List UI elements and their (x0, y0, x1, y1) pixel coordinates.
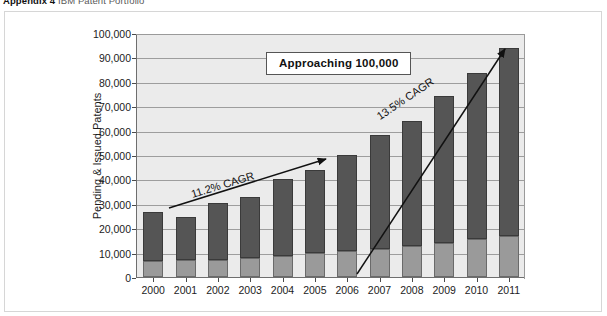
caption-label: Appendix 4 (3, 0, 55, 6)
bar-segment-pending (143, 212, 163, 261)
x-axis-tick-label-2006: 2006 (335, 284, 358, 296)
y-axis-tick-label: 80,000 (99, 77, 131, 89)
x-axis-tick-label-2003: 2003 (238, 284, 261, 296)
x-axis-tick-mark (477, 278, 478, 282)
bar-segment-issued (434, 243, 454, 277)
y-axis-tick-label: 60,000 (99, 126, 131, 138)
x-axis-tick-mark (444, 278, 445, 282)
x-axis-tick-mark (283, 278, 284, 282)
y-axis-tick-label: 90,000 (99, 52, 131, 64)
bar-segment-issued (499, 236, 519, 277)
x-axis-tick-mark (250, 278, 251, 282)
y-axis-tick-mark (132, 156, 136, 157)
y-axis-tick-mark (132, 58, 136, 59)
bar-segment-pending (337, 155, 357, 251)
bar-segment-issued (370, 249, 390, 277)
bar-segment-issued (240, 258, 260, 277)
x-axis-tick-label-2010: 2010 (465, 284, 488, 296)
y-axis-title-container: Pending & Issued Patents (51, 34, 65, 278)
y-axis-tick-label: 100,000 (93, 28, 131, 40)
bar-segment-pending (240, 197, 260, 258)
chart-figure: Pending & Issued Patents 010,00020,00030… (4, 11, 602, 312)
bar-segment-pending (273, 179, 293, 256)
y-axis-tick-label: 10,000 (99, 248, 131, 260)
y-axis-tick-mark (132, 205, 136, 206)
y-axis-tick-labels: 010,00020,00030,00040,00050,00060,00070,… (65, 34, 131, 278)
bar-segment-issued (176, 260, 196, 277)
bar-segment-issued (467, 239, 487, 277)
y-axis-tick-mark (132, 107, 136, 108)
y-axis-tick-mark (132, 180, 136, 181)
plot-border-right (524, 34, 525, 279)
bar-segment-issued (143, 261, 163, 277)
bar-segment-pending (402, 121, 422, 246)
bar-segment-issued (402, 246, 422, 277)
x-axis-tick-label-2011: 2011 (498, 284, 521, 296)
y-axis-tick-label: 20,000 (99, 223, 131, 235)
y-axis-tick-label: 0 (125, 272, 131, 284)
x-axis-tick-label-2005: 2005 (303, 284, 326, 296)
y-axis-tick-mark (132, 83, 136, 84)
x-axis-tick-label-2007: 2007 (368, 284, 391, 296)
x-axis-tick-label-2001: 2001 (174, 284, 197, 296)
y-axis-tick-mark (132, 254, 136, 255)
x-axis-tick-label-2004: 2004 (271, 284, 294, 296)
plot-border-top (136, 34, 525, 35)
y-axis-tick-mark (132, 34, 136, 35)
bar-segment-pending (305, 170, 325, 253)
bar-segment-pending (434, 96, 454, 242)
figure-caption: Appendix 4 IBM Patent Portfolio (3, 0, 144, 6)
bar-segment-issued (305, 253, 325, 277)
callout-approaching-100000: Approaching 100,000 (266, 52, 411, 75)
caption-title: IBM Patent Portfolio (58, 0, 144, 6)
x-axis-tick-label-2000: 2000 (141, 284, 164, 296)
x-axis-tick-mark (153, 278, 154, 282)
x-axis-tick-mark (380, 278, 381, 282)
bar-segment-issued (208, 260, 228, 277)
x-axis-tick-label-2008: 2008 (400, 284, 423, 296)
bar-segment-pending (499, 48, 519, 236)
bar-segment-pending (370, 135, 390, 249)
x-axis-tick-mark (315, 278, 316, 282)
y-axis-tick-mark (132, 229, 136, 230)
y-axis-tick-mark (132, 278, 136, 279)
x-axis-tick-mark (509, 278, 510, 282)
y-axis-tick-label: 40,000 (99, 174, 131, 186)
x-axis-tick-mark (186, 278, 187, 282)
y-axis-tick-label: 30,000 (99, 199, 131, 211)
bar-segment-pending (467, 73, 487, 239)
bar-segment-pending (176, 217, 196, 261)
y-axis-tick-mark (132, 132, 136, 133)
y-axis-tick-label: 50,000 (99, 150, 131, 162)
x-axis-tick-label-2009: 2009 (432, 284, 455, 296)
x-axis-tick-mark (347, 278, 348, 282)
x-axis-tick-mark (218, 278, 219, 282)
bar-segment-pending (208, 203, 228, 260)
bar-segment-issued (273, 256, 293, 277)
x-axis-tick-label-2002: 2002 (206, 284, 229, 296)
x-axis-tick-mark (412, 278, 413, 282)
y-axis-tick-label: 70,000 (99, 101, 131, 113)
bar-segment-issued (337, 251, 357, 277)
